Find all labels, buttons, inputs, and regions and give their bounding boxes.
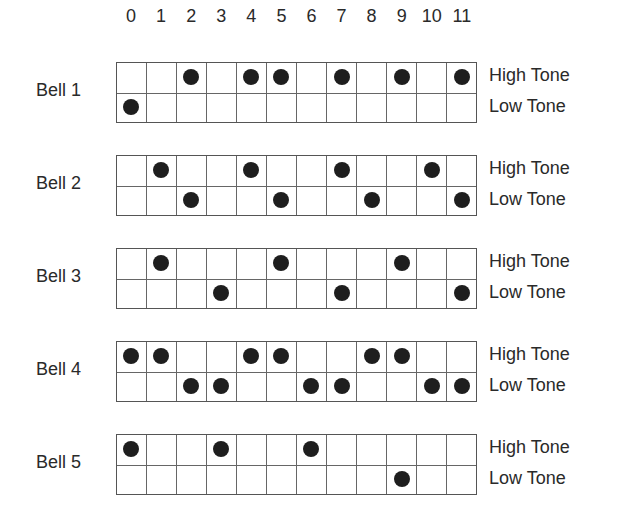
high-tone-strike-dot	[123, 441, 139, 457]
high-tone-strike-dot	[183, 69, 199, 85]
high-tone-strike-dot	[394, 69, 410, 85]
high-tone-strike-dot	[394, 255, 410, 271]
grid-divider	[117, 186, 476, 187]
low-tone-strike-dot	[303, 378, 319, 394]
low-tone-strike-dot	[213, 378, 229, 394]
low-tone-strike-dot	[334, 378, 350, 394]
high-tone-strike-dot	[424, 162, 440, 178]
low-tone-strike-dot	[334, 285, 350, 301]
grid-divider	[117, 372, 476, 373]
high-tone-label: High Tone	[489, 251, 570, 272]
high-tone-label: High Tone	[489, 158, 570, 179]
low-tone-strike-dot	[454, 378, 470, 394]
low-tone-strike-dot	[424, 378, 440, 394]
column-header: 2	[176, 6, 206, 27]
low-tone-label: Low Tone	[489, 375, 566, 396]
high-tone-strike-dot	[273, 255, 289, 271]
high-tone-strike-dot	[334, 162, 350, 178]
high-tone-strike-dot	[364, 348, 380, 364]
column-header: 7	[327, 6, 357, 27]
high-tone-strike-dot	[394, 348, 410, 364]
bell-diagram: Bell 3High ToneLow Tone	[0, 248, 619, 310]
rhythm-grid	[116, 248, 477, 309]
high-tone-label: High Tone	[489, 437, 570, 458]
bell-label: Bell 1	[36, 80, 81, 101]
low-tone-label: Low Tone	[489, 96, 566, 117]
bell-label: Bell 5	[36, 452, 81, 473]
bell-diagram: Bell 1High ToneLow Tone	[0, 62, 619, 124]
high-tone-label: High Tone	[489, 65, 570, 86]
high-tone-strike-dot	[243, 348, 259, 364]
low-tone-strike-dot	[183, 192, 199, 208]
high-tone-strike-dot	[213, 441, 229, 457]
high-tone-strike-dot	[243, 69, 259, 85]
low-tone-strike-dot	[123, 99, 139, 115]
high-tone-strike-dot	[273, 348, 289, 364]
low-tone-label: Low Tone	[489, 189, 566, 210]
low-tone-strike-dot	[454, 285, 470, 301]
rhythm-grid	[116, 62, 477, 123]
column-header: 0	[116, 6, 146, 27]
bell-label: Bell 2	[36, 173, 81, 194]
high-tone-strike-dot	[303, 441, 319, 457]
low-tone-strike-dot	[454, 192, 470, 208]
rhythm-grid	[116, 434, 477, 495]
column-header: 11	[447, 6, 477, 27]
grid-divider	[117, 465, 476, 466]
low-tone-label: Low Tone	[489, 282, 566, 303]
low-tone-strike-dot	[364, 192, 380, 208]
bell-label: Bell 4	[36, 359, 81, 380]
high-tone-strike-dot	[153, 162, 169, 178]
low-tone-strike-dot	[394, 471, 410, 487]
column-header: 10	[417, 6, 447, 27]
column-header: 3	[206, 6, 236, 27]
column-header: 5	[266, 6, 296, 27]
low-tone-label: Low Tone	[489, 468, 566, 489]
bell-label: Bell 3	[36, 266, 81, 287]
rhythm-grid	[116, 341, 477, 402]
bell-diagram: Bell 2High ToneLow Tone	[0, 155, 619, 217]
column-header: 9	[387, 6, 417, 27]
high-tone-strike-dot	[243, 162, 259, 178]
high-tone-strike-dot	[123, 348, 139, 364]
high-tone-label: High Tone	[489, 344, 570, 365]
bell-diagram: Bell 5High ToneLow Tone	[0, 434, 619, 496]
column-header: 6	[296, 6, 326, 27]
high-tone-strike-dot	[334, 69, 350, 85]
bell-diagram: Bell 4High ToneLow Tone	[0, 341, 619, 403]
low-tone-strike-dot	[273, 192, 289, 208]
grid-divider	[117, 279, 476, 280]
column-header: 1	[146, 6, 176, 27]
grid-divider	[117, 93, 476, 94]
high-tone-strike-dot	[153, 348, 169, 364]
high-tone-strike-dot	[273, 69, 289, 85]
column-header: 4	[236, 6, 266, 27]
high-tone-strike-dot	[153, 255, 169, 271]
rhythm-grid	[116, 155, 477, 216]
low-tone-strike-dot	[213, 285, 229, 301]
column-header: 8	[357, 6, 387, 27]
column-headers: 01234567891011	[116, 6, 477, 30]
low-tone-strike-dot	[183, 378, 199, 394]
high-tone-strike-dot	[454, 69, 470, 85]
